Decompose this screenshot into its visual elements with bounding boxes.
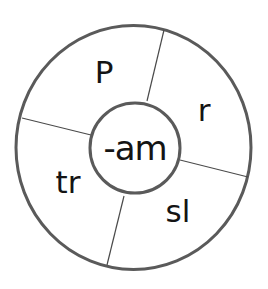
onset-label-bottom-right: sl [166, 196, 191, 227]
onset-label-bottom-left: tr [56, 167, 81, 198]
rime-label: -am [103, 131, 166, 165]
word-wheel: -am P r sl tr [0, 0, 268, 289]
onset-label-top-left: P [95, 57, 114, 88]
onset-label-top-right: r [198, 95, 211, 126]
